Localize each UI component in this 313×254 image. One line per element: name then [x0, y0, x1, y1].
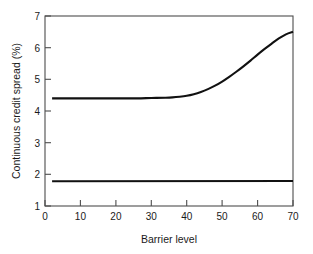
y-tick-label: 4	[34, 106, 40, 117]
y-tick-label: 5	[34, 74, 40, 85]
chart-figure: 7 6 5 4 3 2 1 0 10 20 30 40 50 60 70 Bar…	[0, 0, 313, 254]
x-tick-label: 20	[110, 211, 122, 222]
x-tick-label: 30	[146, 211, 158, 222]
y-tick-label: 7	[34, 11, 40, 22]
x-tick-label: 10	[75, 211, 87, 222]
y-tick-label: 1	[34, 201, 40, 212]
x-tick-label: 50	[217, 211, 229, 222]
x-axis-title: Barrier level	[141, 233, 197, 245]
x-tick-label: 60	[252, 211, 264, 222]
y-tick-label: 6	[34, 43, 40, 54]
x-tick-label: 0	[42, 211, 48, 222]
x-tick-label: 70	[287, 211, 299, 222]
y-tick-label: 3	[34, 138, 40, 149]
x-tick-label: 40	[181, 211, 193, 222]
credit-spread-line-chart: 7 6 5 4 3 2 1 0 10 20 30 40 50 60 70 Bar…	[0, 0, 313, 254]
y-axis-title: Continuous credit spread (%)	[10, 43, 22, 179]
y-tick-label: 2	[34, 169, 40, 180]
